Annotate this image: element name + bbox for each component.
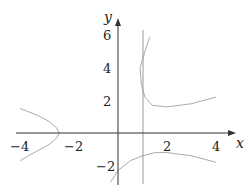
x-tick: −4 — [10, 139, 29, 154]
x-axis-arrow-icon — [228, 130, 236, 136]
y-tick: 2 — [103, 94, 111, 109]
y-tick: −2 — [96, 159, 115, 174]
y-tick: 4 — [103, 61, 111, 76]
plot: x y −4 −2 2 4 6 4 2 −2 — [0, 0, 251, 191]
y-tick: 6 — [103, 28, 111, 43]
y-axis-label: y — [103, 9, 113, 25]
curve-upper-right-branch — [140, 37, 216, 107]
x-axis-label: x — [236, 135, 244, 151]
x-tick: 4 — [212, 139, 220, 154]
curve-lower-branch — [111, 153, 216, 182]
y-axis-arrow-icon — [115, 18, 121, 26]
x-tick: −2 — [64, 139, 83, 154]
x-tick: 2 — [163, 139, 171, 154]
